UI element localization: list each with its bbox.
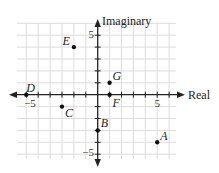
tick-label-y-neg5: −5	[82, 146, 94, 158]
point-label: E	[62, 34, 71, 48]
point-label: A	[159, 129, 168, 143]
real-axis-arrow-right-icon	[177, 92, 185, 98]
axes	[9, 19, 185, 167]
plotted-points: ABCDEFG	[24, 34, 168, 144]
point-label: B	[101, 116, 109, 130]
point-label: F	[112, 96, 121, 110]
point-d: D	[24, 81, 35, 97]
point-dot	[72, 45, 76, 49]
complex-plane-diagram: Imaginary Real −5 5 5 −5 ABCDEFG	[0, 0, 219, 173]
point-dot	[107, 93, 111, 97]
point-label: C	[65, 106, 74, 120]
real-axis-label: Real	[188, 88, 211, 102]
tick-label-y-5: 5	[89, 28, 95, 40]
grid-lines	[17, 23, 176, 159]
point-dot	[96, 128, 100, 132]
point-dot	[60, 104, 64, 108]
point-dot	[107, 81, 111, 85]
tick-label-x-5: 5	[154, 97, 160, 109]
real-axis-arrow-left-icon	[9, 92, 17, 98]
point-label: D	[25, 81, 35, 95]
imaginary-axis-arrow-down-icon	[95, 159, 101, 167]
tick-label-x-neg5: −5	[24, 97, 36, 109]
imaginary-axis-label: Imaginary	[102, 14, 151, 28]
point-dot	[155, 140, 159, 144]
point-label: G	[113, 69, 122, 83]
